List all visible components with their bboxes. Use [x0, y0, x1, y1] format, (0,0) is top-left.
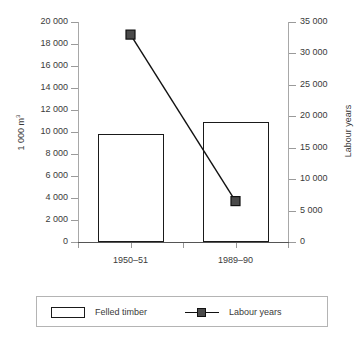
- category-label: 1950–51: [96, 255, 166, 265]
- left-axis-tick-label: 18 000: [40, 39, 68, 48]
- right-axis-title: Labour years: [343, 94, 353, 168]
- x-axis-tick: [183, 243, 184, 248]
- right-axis-line: [288, 22, 289, 243]
- x-axis-tick: [78, 243, 79, 248]
- right-axis-tick-label: 10 000: [300, 174, 328, 183]
- right-axis-tick: [289, 116, 296, 117]
- left-axis-title-text: 1 000 m: [16, 118, 26, 151]
- chart-legend: Felled timber Labour years: [36, 296, 328, 327]
- right-axis-tick: [289, 211, 296, 212]
- left-axis-title-superscript: 3: [15, 115, 21, 118]
- left-axis-tick-label: 0: [63, 237, 68, 246]
- legend-label-labour-years: Labour years: [229, 307, 282, 317]
- right-axis-tick-label: 0: [300, 237, 305, 246]
- x-axis-tick: [131, 243, 132, 248]
- left-axis-tick: [71, 66, 78, 67]
- line-series-marker: [231, 197, 240, 206]
- right-axis-tick-label: 35 000: [300, 17, 328, 26]
- legend-swatch-line-marker-icon: [185, 307, 219, 318]
- legend-item-labour-years: Labour years: [185, 305, 282, 319]
- left-axis-tick: [71, 154, 78, 155]
- left-axis-tick: [71, 198, 78, 199]
- left-axis-tick: [71, 176, 78, 177]
- left-axis-tick: [71, 220, 78, 221]
- left-axis-tick-label: 2 000: [45, 215, 68, 224]
- category-label: 1989–90: [201, 255, 271, 265]
- plot-area: [78, 22, 288, 242]
- right-axis-tick-label: 20 000: [300, 111, 328, 120]
- legend-label-felled-timber: Felled timber: [95, 307, 147, 317]
- right-axis-tick-label: 25 000: [300, 80, 328, 89]
- right-axis-tick: [289, 85, 296, 86]
- left-axis-tick-label: 8 000: [45, 149, 68, 158]
- right-axis-tick: [289, 22, 296, 23]
- right-axis-tick: [289, 242, 296, 243]
- right-axis-tick: [289, 53, 296, 54]
- x-axis-tick: [236, 243, 237, 248]
- right-axis-tick-label: 15 000: [300, 143, 328, 152]
- left-axis-tick-label: 12 000: [40, 105, 68, 114]
- left-axis-tick: [71, 22, 78, 23]
- legend-swatch-pattern-box-icon: [51, 307, 85, 318]
- line-series-path: [131, 35, 236, 202]
- left-axis-tick-label: 4 000: [45, 193, 68, 202]
- left-axis-tick: [71, 242, 78, 243]
- right-axis-tick-label: 30 000: [300, 48, 328, 57]
- left-axis-tick-label: 16 000: [40, 61, 68, 70]
- left-axis-title: 1 000 m3: [13, 98, 26, 168]
- legend-square-marker-icon: [197, 308, 206, 317]
- left-axis-tick-label: 6 000: [45, 171, 68, 180]
- chart-figure: 02 0004 0006 0008 00010 00012 00014 0001…: [0, 0, 364, 347]
- legend-item-felled-timber: Felled timber: [51, 305, 147, 319]
- right-axis-tick: [289, 179, 296, 180]
- right-axis-tick: [289, 148, 296, 149]
- left-axis-tick: [71, 110, 78, 111]
- line-series: [78, 22, 288, 242]
- right-axis-tick-label: 5 000: [300, 206, 323, 215]
- line-series-marker: [126, 30, 135, 39]
- left-axis-tick: [71, 44, 78, 45]
- left-axis-tick-label: 10 000: [40, 127, 68, 136]
- left-axis-tick: [71, 88, 78, 89]
- left-axis-tick: [71, 132, 78, 133]
- left-axis-tick-label: 14 000: [40, 83, 68, 92]
- left-axis-tick-label: 20 000: [40, 17, 68, 26]
- x-axis-tick: [288, 243, 289, 248]
